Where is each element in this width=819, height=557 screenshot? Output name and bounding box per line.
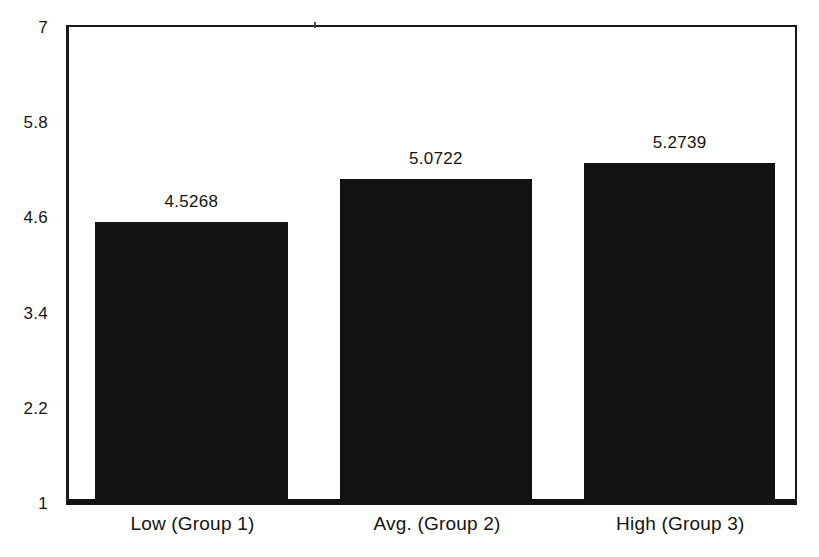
x-label-low-group-1: Low (Group 1) [130,513,254,535]
y-axis: 7 5.8 4.6 3.4 2.2 1 [0,28,56,504]
bar-chart-figure: 7 5.8 4.6 3.4 2.2 1 4.5268 5.0722 5.2739… [0,0,819,557]
bar-rect-high [584,163,774,499]
plot-inner-area: 4.5268 5.0722 5.2739 [69,27,795,499]
bar-rect-low [95,222,287,499]
bar-value-label-avg: 5.0722 [340,149,532,169]
bar-value-label-high: 5.2739 [584,133,774,153]
bar-high-group-3: 5.2739 [584,163,774,499]
y-tick-label-5-8: 5.8 [23,113,48,133]
bar-value-label-low: 4.5268 [95,192,287,212]
x-label-high-group-3: High (Group 3) [616,513,744,535]
x-label-avg-group-2: Avg. (Group 2) [374,513,501,535]
y-tick-label-2-2: 2.2 [23,399,48,419]
y-tick-label-3-4: 3.4 [23,304,48,324]
bar-low-group-1: 4.5268 [95,222,287,499]
bar-avg-group-2: 5.0722 [340,179,532,499]
y-tick-label-7: 7 [38,18,48,38]
x-axis: Low (Group 1) Avg. (Group 2) High (Group… [69,513,795,539]
y-tick-label-4-6: 4.6 [23,208,48,228]
plot-area: 4.5268 5.0722 5.2739 [66,25,797,505]
y-tick-label-1: 1 [38,494,48,514]
bar-rect-avg [340,179,532,499]
